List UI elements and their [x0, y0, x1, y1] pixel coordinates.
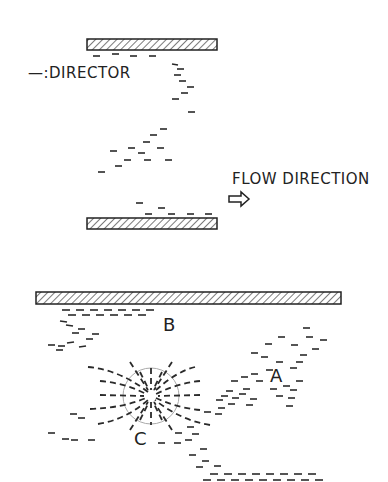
top-plate [87, 39, 217, 50]
label-c: C [134, 428, 147, 449]
defect-c [88, 362, 210, 430]
flow-direction-label: FLOW DIRECTION [232, 170, 370, 188]
legend-text: :DIRECTOR [44, 64, 131, 82]
label-b: B [163, 314, 176, 335]
liquid-crystal-flow-diagram: —:DIRECTOR FLOW DIRECTION B A C [0, 0, 388, 482]
bottom-diagram-plate [36, 292, 341, 304]
label-a: A [270, 365, 283, 386]
bottom-plate-upper [87, 218, 217, 229]
legend-symbol: — [28, 64, 44, 82]
flow-arrow-icon [229, 192, 249, 206]
legend: —:DIRECTOR [28, 64, 131, 82]
